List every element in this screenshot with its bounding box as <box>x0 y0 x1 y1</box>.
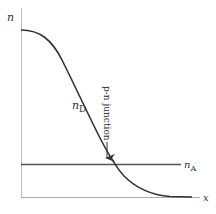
donor-label-sub: D <box>79 104 86 114</box>
acceptor-label: nA <box>184 159 196 173</box>
junction-annotation: p-n junction <box>102 86 112 141</box>
junction-diagram: n x nA nD p-n junction <box>0 0 216 214</box>
donor-label-main: n <box>72 99 79 112</box>
acceptor-label-sub: A <box>189 164 196 173</box>
donor-label: nD <box>72 99 86 114</box>
y-axis-label: n <box>7 11 14 24</box>
x-axis-label: x <box>203 192 209 203</box>
